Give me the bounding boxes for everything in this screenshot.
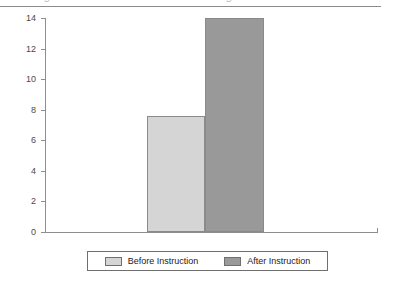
y-axis-tick	[41, 110, 46, 111]
y-axis-tick	[41, 171, 46, 172]
y-axis-tick	[41, 79, 46, 80]
y-axis-tick-label: 14	[0, 14, 36, 23]
y-axis-tick	[41, 140, 46, 141]
y-axis-tick	[41, 201, 46, 202]
x-axis-end-tick	[377, 228, 378, 233]
bar-before-instruction	[147, 116, 205, 232]
legend-entry: Before Instruction	[105, 257, 199, 266]
legend-label: Before Instruction	[128, 257, 199, 266]
legend-swatch-icon	[105, 257, 122, 266]
bar-after-instruction	[205, 18, 264, 232]
y-axis-tick	[41, 49, 46, 50]
y-axis-tick-label: 6	[0, 136, 36, 145]
x-axis-line	[45, 232, 378, 233]
figure-container: Figure 1. Achievement Gains following In…	[0, 0, 395, 282]
y-axis-tick-label: 10	[0, 75, 36, 84]
legend-swatch-icon	[224, 257, 241, 266]
y-axis-tick-label: 4	[0, 167, 36, 176]
y-axis-tick-label: 2	[0, 197, 36, 206]
bar-chart-plot-area: 02468101214	[0, 0, 395, 282]
y-axis-tick	[41, 232, 46, 233]
y-axis-tick-label: 0	[0, 228, 36, 237]
y-axis-tick	[41, 18, 46, 19]
chart-legend: Before InstructionAfter Instruction	[87, 251, 328, 271]
y-axis-tick-label: 12	[0, 45, 36, 54]
legend-entry: After Instruction	[224, 257, 310, 266]
legend-label: After Instruction	[247, 257, 310, 266]
y-axis-tick-label: 8	[0, 106, 36, 115]
